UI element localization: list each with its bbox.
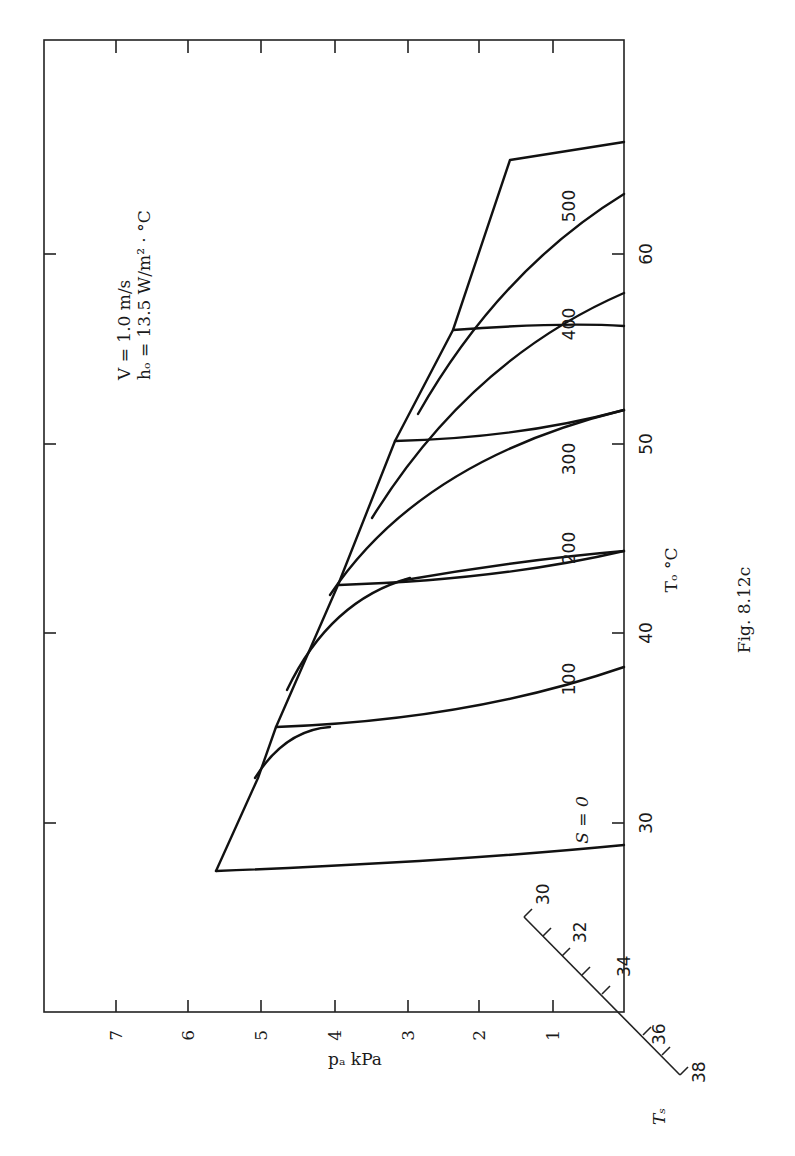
svg-text:40: 40 (636, 622, 656, 644)
s500-curve (418, 194, 624, 414)
ts-scale-label: Tₛ (649, 1108, 669, 1125)
svg-text:6: 6 (178, 1030, 198, 1041)
s200-label: 200 (559, 532, 579, 564)
s200-curve (287, 578, 410, 690)
pa-axis-label: pₐ kPa (328, 1049, 382, 1069)
chart-curves (216, 142, 624, 871)
to-axis-label: Tₒ °C (661, 548, 681, 593)
ts-scale: 30 32 34 36 38 Tₛ (524, 883, 709, 1125)
svg-text:32: 32 (570, 921, 590, 943)
s500-label: 500 (559, 190, 579, 222)
svg-text:34: 34 (614, 955, 634, 977)
s100-label: 100 (559, 663, 579, 695)
svg-text:1: 1 (543, 1030, 563, 1041)
s400-label: 400 (559, 308, 579, 340)
figure-caption: Fig. 8.12c (734, 567, 754, 653)
s0-curve (216, 845, 624, 871)
svg-text:3: 3 (398, 1030, 418, 1041)
svg-text:5: 5 (251, 1030, 271, 1041)
svg-text:30: 30 (636, 812, 656, 834)
svg-text:60: 60 (636, 243, 656, 265)
heat-coefficient-annotation: hₒ = 13.5 W/m² · °C (134, 210, 154, 380)
to-tick-labels: 30 40 50 60 (636, 243, 656, 834)
upper-boundary-curve (216, 142, 624, 871)
svg-text:30: 30 (533, 883, 553, 905)
s300-label: 300 (559, 443, 579, 475)
pa-tick-labels: 7 6 5 4 3 2 1 (106, 1030, 563, 1041)
to-axis-ticks (612, 254, 624, 823)
curve-labels: S = 0 100 200 300 400 500 (559, 190, 592, 844)
svg-text:4: 4 (325, 1030, 345, 1041)
annotation-block: V = 1.0 m/s hₒ = 13.5 W/m² · °C (114, 210, 154, 381)
figure-canvas: 7 6 5 4 3 2 1 pₐ kPa 30 40 50 60 Tₒ °C F… (0, 0, 795, 1156)
svg-text:7: 7 (106, 1030, 126, 1041)
s300-limit-curve (395, 410, 624, 441)
svg-text:50: 50 (636, 433, 656, 455)
pa-axis-ticks (116, 1000, 553, 1012)
s0-label: S = 0 (572, 796, 592, 844)
svg-text:36: 36 (649, 1023, 669, 1045)
left-axis-ticks (44, 254, 56, 823)
svg-text:2: 2 (469, 1030, 489, 1041)
svg-text:38: 38 (689, 1061, 709, 1083)
velocity-annotation: V = 1.0 m/s (114, 280, 134, 381)
top-axis-ticks (116, 40, 553, 53)
